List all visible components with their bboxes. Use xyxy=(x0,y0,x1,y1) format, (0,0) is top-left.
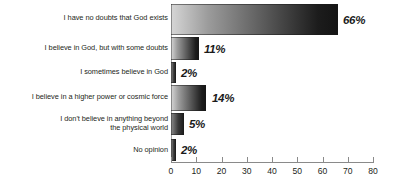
x-axis-tick xyxy=(247,157,248,162)
chart-row: I have no doubts that God exists 66% xyxy=(0,4,393,35)
bar-track: 66% xyxy=(171,4,373,35)
x-axis-tick-label: 0 xyxy=(169,166,174,176)
x-axis-tick xyxy=(323,157,324,162)
bar-track: 2% xyxy=(171,62,373,83)
chart-row: I believe in a higher power or cosmic fo… xyxy=(0,85,393,111)
bar[interactable] xyxy=(171,62,176,83)
bar[interactable] xyxy=(171,85,206,111)
x-axis-tick-label: 40 xyxy=(267,166,277,176)
chart-row: I don't believe in anything beyond the p… xyxy=(0,113,393,135)
bar-value-label: 66% xyxy=(343,14,365,26)
x-axis-tick xyxy=(171,157,172,162)
x-axis-tick-label: 50 xyxy=(292,166,302,176)
bar-value-label: 11% xyxy=(204,43,225,55)
category-label: I believe in God, but with some doubts xyxy=(3,43,168,52)
x-axis-tick xyxy=(297,157,298,162)
category-label: I sometimes believe in God xyxy=(3,67,168,76)
bar-track: 11% xyxy=(171,37,373,60)
bar-chart: I have no doubts that God exists 66% I b… xyxy=(0,0,393,196)
bar-track: 14% xyxy=(171,85,373,111)
x-axis-tick-label: 60 xyxy=(318,166,328,176)
bar-value-label: 14% xyxy=(212,92,234,104)
x-axis-tick xyxy=(196,157,197,162)
bar-value-label: 2% xyxy=(181,144,197,156)
chart-row: I sometimes believe in God 2% xyxy=(0,62,393,83)
category-label: I believe in a higher power or cosmic fo… xyxy=(3,92,168,101)
bar[interactable] xyxy=(171,4,338,35)
category-label: I have no doubts that God exists xyxy=(3,13,168,22)
x-axis-tick-label: 70 xyxy=(343,166,353,176)
x-axis-tick xyxy=(222,157,223,162)
x-axis-tick xyxy=(272,157,273,162)
bar-track: 5% xyxy=(171,113,373,135)
bar[interactable] xyxy=(171,113,184,135)
bar[interactable] xyxy=(171,37,199,60)
x-axis-tick-label: 80 xyxy=(368,166,378,176)
x-axis-tick-label: 10 xyxy=(191,166,201,176)
x-axis-tick xyxy=(373,157,374,162)
bar-value-label: 2% xyxy=(181,67,197,79)
chart-row: I believe in God, but with some doubts 1… xyxy=(0,37,393,60)
bar-value-label: 5% xyxy=(189,118,205,130)
category-label: I don't believe in anything beyond the p… xyxy=(3,114,168,133)
category-label: No opinion xyxy=(3,145,168,154)
x-axis-tick xyxy=(348,157,349,162)
x-axis-tick-label: 30 xyxy=(242,166,252,176)
x-axis-tick-label: 20 xyxy=(217,166,227,176)
x-axis-line xyxy=(171,162,374,163)
